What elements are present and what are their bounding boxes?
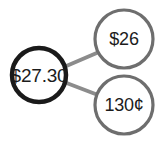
- node-label-root: $27.30: [0, 66, 78, 85]
- diagram-canvas: $27.30 $26 130¢: [0, 0, 164, 145]
- node-label-cents: 130¢: [92, 96, 156, 114]
- node-label-dollars: $26: [94, 30, 154, 48]
